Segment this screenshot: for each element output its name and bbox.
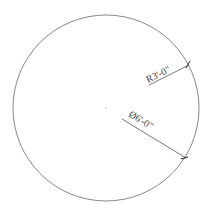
- radius-dimension[interactable]: R3'-0": [144, 61, 190, 85]
- diameter-leader-line: [122, 119, 186, 158]
- circle-drawing-canvas: R3'-0" Ø6'-0": [0, 0, 213, 214]
- diameter-dimension[interactable]: Ø6'-0": [122, 108, 188, 159]
- radius-label: R3'-0": [144, 64, 172, 85]
- center-point: [105, 107, 107, 109]
- diameter-label: Ø6'-0": [127, 108, 155, 131]
